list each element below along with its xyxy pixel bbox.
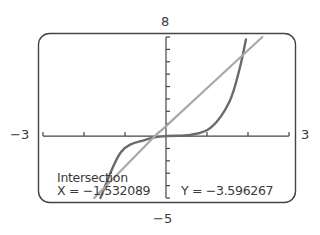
graph-screen <box>0 0 320 235</box>
x-value-readout: X = −1.532089 <box>57 184 150 197</box>
y-value-readout: Y = −3.596267 <box>181 184 273 197</box>
